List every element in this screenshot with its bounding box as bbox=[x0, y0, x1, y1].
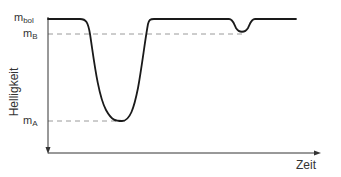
m-b-label: mB bbox=[23, 28, 38, 41]
x-axis-arrow-icon bbox=[314, 151, 321, 156]
m-a-label: mA bbox=[23, 115, 38, 128]
m-bol-label: mbol bbox=[14, 12, 34, 25]
light-curve-diagram bbox=[0, 0, 341, 177]
x-axis-title: Zeit bbox=[296, 158, 316, 172]
y-axis-title: Helligkeit bbox=[4, 62, 24, 122]
